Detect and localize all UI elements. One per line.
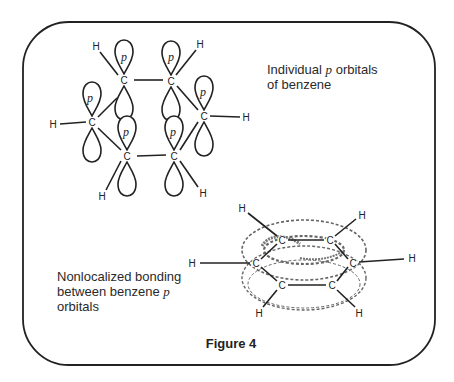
svg-text:C: C (88, 117, 95, 128)
hydrogen-atoms-top: H H H H H H (49, 39, 249, 202)
svg-text:H: H (188, 258, 195, 269)
svg-text:C: C (328, 280, 335, 291)
svg-text:H: H (408, 253, 415, 264)
svg-text:Individual p orbitals: Individual p orbitals (267, 62, 378, 77)
svg-text:between benzene p: between benzene p (57, 284, 170, 299)
svg-text:C: C (252, 258, 259, 269)
cc-bonds-top (98, 80, 198, 156)
svg-text:H: H (358, 210, 365, 221)
svg-text:C: C (167, 76, 174, 87)
svg-text:p: p (86, 91, 93, 105)
benzene-figure: p p p p p p C C (0, 0, 454, 382)
svg-text:orbitals: orbitals (57, 299, 99, 314)
carbon-atoms-top: C C C C C C (87, 75, 209, 162)
individual-p-orbitals-diagram: p p p p p p C C (49, 39, 249, 202)
svg-text:H: H (49, 119, 56, 130)
figure-caption: Figure 4 (206, 336, 257, 351)
svg-text:H: H (196, 39, 203, 50)
ch-bonds-bottom (200, 213, 404, 307)
svg-text:C: C (278, 235, 285, 246)
pi-electron-cloud (242, 220, 366, 310)
nonlocalized-bonding-label: Nonlocalized bonding between benzene p o… (57, 269, 181, 314)
svg-text:C: C (200, 111, 207, 122)
svg-text:H: H (255, 308, 262, 319)
svg-text:p: p (167, 50, 174, 64)
ch-bonds-top (60, 50, 240, 190)
individual-orbitals-label: Individual p orbitals of benzene (267, 62, 378, 92)
svg-text:of benzene: of benzene (267, 77, 331, 92)
svg-text:C: C (170, 151, 177, 162)
svg-text:p: p (199, 85, 206, 99)
svg-text:p: p (169, 125, 176, 139)
carbon-atoms-bottom: C C C C C C (252, 235, 358, 291)
svg-text:H: H (242, 112, 249, 123)
svg-text:H: H (355, 308, 362, 319)
cc-bonds-bottom (261, 240, 348, 285)
svg-text:C: C (326, 235, 333, 246)
svg-text:H: H (98, 191, 105, 202)
svg-text:C: C (278, 280, 285, 291)
svg-text:C: C (349, 258, 356, 269)
svg-text:p: p (122, 125, 129, 139)
svg-text:C: C (123, 151, 130, 162)
svg-text:C: C (120, 75, 127, 86)
svg-text:H: H (199, 188, 206, 199)
svg-text:p: p (120, 50, 127, 64)
nonlocalized-bonding-diagram: C C C C C C H H H H H H (188, 203, 415, 319)
svg-text:H: H (92, 41, 99, 52)
svg-text:Nonlocalized bonding: Nonlocalized bonding (57, 269, 181, 284)
svg-text:H: H (238, 203, 245, 214)
